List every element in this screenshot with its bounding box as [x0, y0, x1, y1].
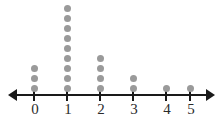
dot: [64, 45, 71, 52]
axis-tick-label-4: 4: [157, 101, 177, 118]
dot: [64, 65, 71, 72]
dot: [64, 75, 71, 82]
dot: [64, 55, 71, 62]
dot: [64, 25, 71, 32]
dot: [31, 65, 38, 72]
dot: [187, 85, 194, 92]
dot: [64, 5, 71, 12]
dot: [130, 75, 137, 82]
axis-tick-label-2: 2: [91, 101, 111, 118]
axis-tick-label-5: 5: [181, 101, 201, 118]
dot: [31, 75, 38, 82]
dot: [97, 65, 104, 72]
number-line-axis: [16, 94, 208, 96]
dot-plot-figure: 012345: [0, 0, 223, 120]
axis-arrow-left-icon: [8, 89, 17, 101]
axis-tick-label-0: 0: [25, 101, 45, 118]
dot: [97, 75, 104, 82]
axis-arrow-right-icon: [206, 89, 215, 101]
dot: [97, 55, 104, 62]
dot: [130, 85, 137, 92]
axis-tick-label-1: 1: [58, 101, 78, 118]
dot: [64, 15, 71, 22]
axis-tick-label-3: 3: [124, 101, 144, 118]
dot: [31, 85, 38, 92]
dot: [64, 85, 71, 92]
dot: [64, 35, 71, 42]
dot: [97, 85, 104, 92]
dot: [163, 85, 170, 92]
